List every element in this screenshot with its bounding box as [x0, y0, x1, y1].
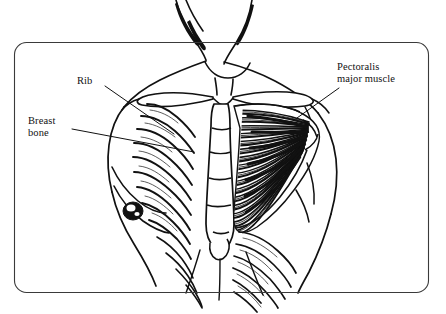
label-pectoralis-line2: major muscle — [337, 73, 395, 85]
chest-anatomy-figure: Rib Breast bone Pectoralis major muscle — [0, 0, 446, 314]
label-breast-bone-line1: Breast — [28, 115, 55, 127]
label-rib-line1: Rib — [77, 75, 92, 87]
neck-outline — [176, 0, 252, 95]
sternum-shape — [206, 104, 234, 250]
label-breast-bone-line2: bone — [28, 127, 55, 139]
ribcage-left-lower — [157, 237, 202, 308]
label-breast-bone: Breast bone — [28, 115, 55, 139]
anatomy-illustration — [0, 0, 446, 314]
ribcage-lower-right — [233, 232, 296, 312]
pectoralis-major-muscle-shape — [230, 104, 319, 233]
label-pectoralis-line1: Pectoralis — [337, 61, 395, 73]
breast-outline — [112, 167, 169, 233]
label-rib: Rib — [77, 75, 92, 87]
label-pectoralis-major-muscle: Pectoralis major muscle — [337, 61, 395, 85]
nipple-marking — [123, 202, 143, 220]
